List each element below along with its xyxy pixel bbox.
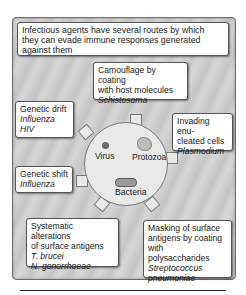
genetic-shift-line-1: Genetic shift (20, 169, 68, 179)
systematic-example-2: N. gonorrhoeae (31, 261, 114, 271)
masking-box: Masking of surface antigens by coating w… (143, 220, 232, 278)
systematic-alterations-box: Systematic alterations of surface antige… (26, 218, 119, 267)
invading-enucleated-box: Invading enu- cleated cells Plasmodium (172, 113, 233, 151)
systematic-line-1: Systematic alterations (31, 221, 114, 241)
invading-example-1: Plasmodium (177, 146, 228, 156)
camouflage-line-1: Camouflage by coating (98, 65, 183, 85)
camouflage-line-2: with host molecules (98, 85, 183, 95)
header-line-3: against them (22, 45, 224, 55)
masking-line-2: antigens by coating (148, 233, 227, 243)
invading-line-1: Invading enu- (177, 116, 228, 136)
protozoa-label: Protozoa (132, 152, 166, 162)
genetic-drift-example-1: Influenza (20, 114, 69, 124)
masking-line-3: with polysaccharides (148, 243, 227, 263)
footer-rule (20, 290, 226, 291)
bacteria-label: Bacteria (115, 187, 147, 197)
virus-label: Virus (95, 151, 114, 161)
systematic-line-2: of surface antigens (31, 241, 114, 251)
camouflage-example-1: Schistosoma (98, 95, 183, 105)
virus-dot-icon (102, 142, 109, 149)
genetic-drift-box: Genetic drift Influenza HIV (15, 101, 74, 138)
systematic-example-1: T. brucei (31, 251, 114, 261)
protozoa-cell-icon (137, 137, 152, 151)
masking-example-2: pneumoniae (148, 273, 227, 283)
masking-line-1: Masking of surface (148, 223, 227, 233)
genetic-shift-example-1: Influenza (20, 179, 68, 189)
camouflage-box: Camouflage by coating with host molecule… (93, 62, 188, 100)
bacteria-rod-icon (115, 178, 137, 187)
invading-line-2: cleated cells (177, 136, 228, 146)
genetic-drift-example-2: HIV (20, 124, 69, 134)
header-box: Infectious agents have several routes by… (17, 22, 229, 56)
genetic-drift-line-1: Genetic drift (20, 104, 69, 114)
header-line-1: Infectious agents have several routes by… (22, 25, 224, 35)
genetic-shift-box: Genetic shift Influenza (15, 166, 73, 193)
header-line-2: they can evade immune responses generate… (22, 35, 224, 45)
masking-example-1: Streptococcus (148, 263, 227, 273)
